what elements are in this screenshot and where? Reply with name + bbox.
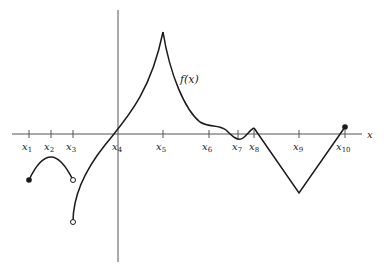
x-axis-label: x bbox=[367, 129, 373, 140]
function-label: f(x) bbox=[179, 73, 199, 86]
closed-point-x1 bbox=[26, 177, 32, 183]
open-point-x3-upper bbox=[71, 178, 76, 183]
curve bbox=[29, 32, 345, 222]
svg-text:x8: x8 bbox=[249, 141, 259, 154]
svg-text:x4: x4 bbox=[112, 141, 123, 154]
tick-labels: x1 x2 x3 x4 x5 x6 x7 x8 x9 x10 bbox=[22, 141, 351, 154]
svg-text:x10: x10 bbox=[336, 141, 351, 154]
svg-text:x2: x2 bbox=[44, 141, 54, 154]
svg-text:x3: x3 bbox=[66, 141, 76, 154]
function-graph: x x1 x2 x3 x4 x5 x6 x7 x8 x9 x10 bbox=[0, 0, 387, 275]
closed-point-x10 bbox=[342, 124, 348, 130]
svg-text:x9: x9 bbox=[293, 141, 303, 154]
svg-text:x1: x1 bbox=[22, 141, 32, 154]
open-point-x3-lower bbox=[71, 220, 76, 225]
svg-text:x6: x6 bbox=[202, 141, 213, 154]
svg-text:x7: x7 bbox=[232, 141, 242, 154]
svg-text:x5: x5 bbox=[156, 141, 166, 154]
